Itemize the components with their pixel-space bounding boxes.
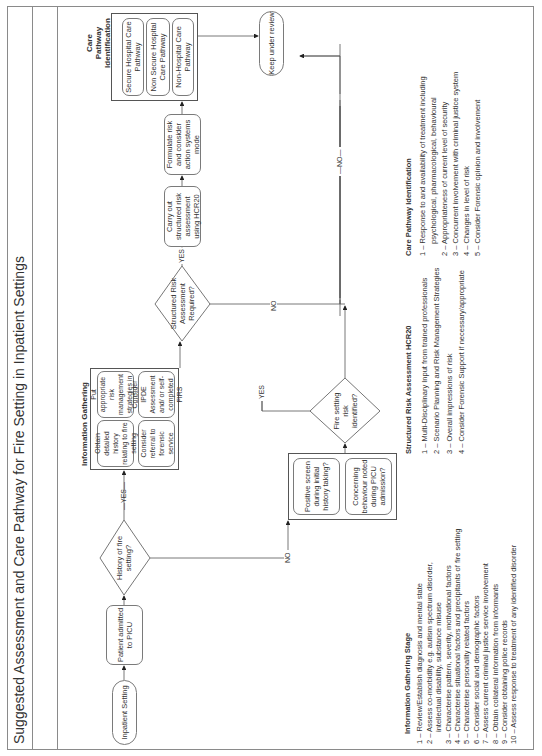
yes-label-history: —YES— — [120, 482, 127, 510]
hcr20-item: 1 – Multi-Disciplinary Input from traine… — [419, 224, 432, 454]
info-stage-item: 1 – Review/Establish diagnosis and menta… — [415, 484, 424, 744]
info-stage-item: 10 – Assess response to treatment of any… — [509, 484, 518, 744]
care-item-1: Secure Hospital Care Pathway — [122, 18, 144, 96]
care-list: Care Pathway Identification 1 – Response… — [403, 16, 483, 256]
hcr20-node: Carry out structured risk assessment usi… — [164, 186, 201, 247]
risk-question: Fire setting risk identified? — [330, 388, 360, 434]
info-stage-item: 8 – Obtain collateral information from i… — [491, 484, 500, 744]
formulate-label: Formulate risk and consider action syste… — [165, 115, 201, 174]
hcr20-list: Structured Risk Assessment HCR20 1 – Mul… — [403, 224, 469, 454]
info-item-1: Obtain detailed history relating to fire… — [97, 420, 134, 467]
care-list-item: psychological, pharmacological, behaviou… — [428, 16, 439, 256]
rotated-page: Suggested Assessment and Care Pathway fo… — [0, 0, 542, 756]
review-node: Keep under review — [259, 11, 284, 76]
care-item-2-label: Non Secure Hospital Care Pathway — [149, 19, 167, 95]
info-stage-item: 2 – Assess co-morbidity e.g. autism spec… — [425, 484, 434, 744]
care-list-item: 5 – Consider Forensic opinion and involv… — [472, 16, 483, 256]
hcr20-item: 2 – Scenario Planning and Risk Managemen… — [431, 224, 444, 454]
info-item-1-label: Obtain detailed history relating to fire… — [93, 421, 138, 466]
care-list-item: 4 – Changes in level of risk — [461, 16, 472, 256]
info-stage-item: intellectual disability, substance misus… — [434, 484, 443, 744]
screen-item-2: Concerning behaviour noted during PICU a… — [345, 458, 392, 515]
review-label: Keep under review — [267, 12, 276, 75]
hcr20-item: 4 – Consider Forensic Support if necessa… — [456, 224, 469, 454]
care-item-1-label: Secure Hospital Care Pathway — [124, 19, 142, 95]
no-label-history: NO — [284, 551, 291, 566]
structured-question: Structured Risk Assessment Required? — [165, 276, 199, 331]
history-question: History of fire setting? — [110, 532, 138, 584]
hcr20-heading: Structured Risk Assessment HCR20 — [403, 224, 416, 454]
info-stage-list: Information Gathering Stage 1 – Review/E… — [403, 484, 519, 744]
care-list-heading: Care Pathway Identification — [403, 16, 414, 256]
info-item-3: Consider referral to forensic service — [138, 420, 175, 467]
screen-item-2-label: Concerning behaviour noted during PICU a… — [351, 459, 387, 514]
info-stage-heading: Information Gathering Stage — [403, 484, 412, 744]
care-item-3: Non-Hospital Care Pathway — [172, 18, 194, 96]
admitted-label: Patient admitted to PICU — [116, 606, 134, 664]
history-question-label: History of fire setting? — [115, 532, 133, 584]
info-item-2: Put appropriate risk management strategi… — [97, 371, 134, 418]
screen-item-1: Positive screen during initial history t… — [293, 458, 340, 515]
structured-question-label: Structured Risk Assessment Required? — [169, 276, 196, 331]
yes-label-structured: YES — [178, 248, 185, 264]
admitted-node: Patient admitted to PICU — [106, 605, 143, 665]
care-item-2: Non Secure Hospital Care Pathway — [146, 18, 170, 96]
info-stage-item: 4 – Characterise situational factors and… — [453, 484, 462, 744]
info-stage-item: 7 – Assess current criminal justice serv… — [481, 484, 490, 744]
info-stage-item: 6 – Consider social and demographic fact… — [472, 484, 481, 744]
info-stage-item: 3 – Characterise pattern, severity, moti… — [444, 484, 453, 744]
screen-item-1-label: Positive screen during initial history t… — [303, 459, 330, 514]
hcr20-item: 3 – Overall impressions of risk — [444, 224, 457, 454]
start-node: Inpatient Setting — [112, 680, 137, 745]
hcr20-label: Carry out structured risk assessment usi… — [165, 187, 201, 246]
care-item-3-label: Non-Hospital Care Pathway — [174, 19, 192, 95]
info-item-3-label: Consider referral to forensic service — [139, 421, 175, 466]
care-group-title: Care Pathway Identification — [85, 18, 112, 68]
care-list-item: 3 – Concurrent involvement with criminal… — [450, 16, 461, 256]
risk-question-label: Fire setting risk identified? — [332, 388, 359, 434]
info-item-4: Consider IPDE Assessment and/ or self-co… — [138, 371, 175, 418]
info-stage-item: 5 – Characterise personality related fac… — [462, 484, 471, 744]
no-label-risk: NO — [270, 299, 277, 314]
formulate-node: Formulate risk and consider action syste… — [164, 114, 201, 175]
info-item-4-label: Consider IPDE Assessment and/ or self-co… — [130, 372, 184, 417]
care-list-item: 2 – Appropriateness of current level of … — [439, 16, 450, 256]
yes-label-risk: YES — [258, 383, 265, 401]
care-list-item: 1 – Response to and availability of trea… — [417, 16, 428, 256]
info-stage-item: 9 – Consider obtaining police records — [500, 484, 509, 744]
start-label: Inpatient Setting — [120, 685, 129, 739]
no-label-review: —NO— — [336, 148, 343, 177]
